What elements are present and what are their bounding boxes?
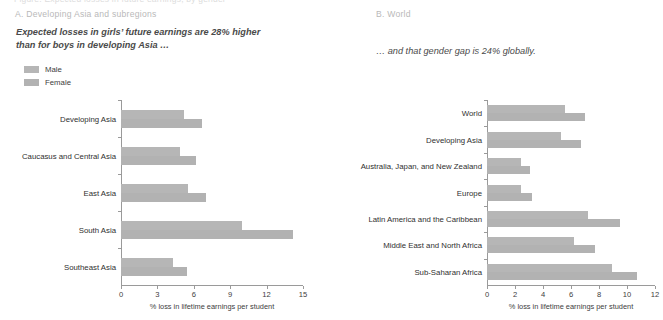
category-label: Developing Asia [336,135,482,144]
category-label: Europe [336,188,482,197]
x-axis-tick [267,286,268,289]
category-tick [118,248,121,249]
category-label: Developing Asia [0,114,116,123]
bar-female [121,119,202,128]
x-axis-tick [655,286,656,289]
chart-a-plot-area: 03691215% loss in lifetime earnings per … [0,0,336,320]
x-axis-tick-label: 0 [485,290,489,299]
x-axis-tick [627,286,628,289]
x-axis-tick-label: 10 [623,290,631,299]
category-label: Sub-Saharan Africa [336,267,482,276]
category-tick [484,100,487,101]
category-label: East Asia [0,188,116,197]
bar-female [487,219,620,227]
x-axis-tick [515,286,516,289]
category-tick [118,211,121,212]
bar-female [487,193,532,201]
x-axis-tick [194,286,195,289]
x-axis-tick [571,286,572,289]
x-axis-tick [303,286,304,289]
x-axis-tick-label: 4 [541,290,545,299]
x-axis-tick [599,286,600,289]
x-axis-tick-label: 9 [228,290,232,299]
x-axis-tick-label: 0 [119,290,123,299]
category-label: Caucasus and Central Asia [0,151,116,160]
category-tick [484,153,487,154]
chart-b-plot-area: 024681012% loss in lifetime earnings per… [336,0,663,320]
x-axis-tick [543,286,544,289]
x-axis-tick-label: 6 [192,290,196,299]
bar-female [487,245,595,253]
panel-b: B. World … and that gender gap is 24% gl… [336,0,663,320]
bar-female [121,193,206,202]
x-axis-tick-label: 6 [569,290,573,299]
bar-female [487,113,585,121]
x-axis-tick [157,286,158,289]
category-label: Middle East and North Africa [336,241,482,250]
x-axis-tick [487,286,488,289]
bar-female [487,166,530,174]
category-label: World [336,109,482,118]
bar-female [121,156,196,165]
x-axis-tick [121,286,122,289]
bar-female [121,267,187,276]
x-axis-tick-label: 12 [651,290,659,299]
x-axis-tick-label: 8 [597,290,601,299]
x-axis-tick-label: 15 [299,290,307,299]
category-tick [118,174,121,175]
x-axis-title: % loss in lifetime earnings per student [509,302,633,311]
bar-female [487,140,581,148]
bar-female [121,230,293,239]
x-axis-tick [230,286,231,289]
category-tick [484,206,487,207]
x-axis-tick-label: 3 [155,290,159,299]
category-tick [484,126,487,127]
category-tick [118,137,121,138]
category-label: Southeast Asia [0,262,116,271]
category-label: Latin America and the Caribbean [336,214,482,223]
category-tick [484,259,487,260]
category-label: South Asia [0,225,116,234]
x-axis-title: % loss in lifetime earnings per student [150,302,274,311]
bar-female [487,272,637,280]
x-axis-tick-label: 2 [513,290,517,299]
category-tick [484,232,487,233]
category-label: Australia, Japan, and New Zealand [336,162,482,171]
category-tick [118,100,121,101]
panel-a: A. Developing Asia and subregions Expect… [0,0,336,320]
chart-x-axis [121,285,303,286]
x-axis-tick-label: 12 [262,290,270,299]
category-tick [484,179,487,180]
